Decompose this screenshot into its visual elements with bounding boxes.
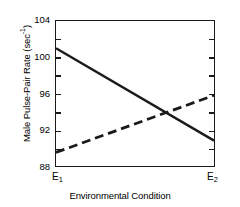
y-tick-left-90	[56, 149, 61, 151]
plot-area	[55, 20, 215, 167]
x-tick-label-e2-sub: 2	[214, 175, 218, 184]
series-lines	[56, 21, 214, 166]
y-tick-right-90	[209, 149, 214, 151]
y-tick-right-96	[209, 94, 214, 96]
series-line-solid	[56, 48, 214, 140]
y-tick-right-102	[209, 39, 214, 41]
x-tick-label-e1: E1	[52, 171, 63, 182]
y-axis-title-suffix: )	[21, 25, 32, 28]
x-tick-label-e1-text: E	[52, 171, 59, 182]
y-axis-title: Male Pulse-Pair Rate (sec-1)	[21, 4, 32, 164]
y-tick-right-98	[209, 75, 214, 77]
y-tick-right-92	[209, 131, 214, 133]
y-axis-title-text: Male Pulse-Pair Rate (sec	[21, 34, 32, 142]
y-tick-right-94	[209, 112, 214, 114]
series-line-dashed	[56, 95, 214, 152]
y-tick-left-100	[56, 57, 61, 59]
y-tick-left-102	[56, 39, 61, 41]
y-tick-right-100	[209, 57, 214, 59]
y-axis-title-exponent: -1	[19, 28, 26, 34]
y-tick-left-94	[56, 112, 61, 114]
x-tick-label-e2-text: E	[207, 171, 214, 182]
x-tick-label-e1-sub: 1	[59, 175, 63, 184]
y-tick-left-92	[56, 131, 61, 133]
chart-figure: Male Pulse-Pair Rate (sec-1) 104 100 96 …	[0, 0, 240, 207]
y-tick-left-98	[56, 75, 61, 77]
x-tick-label-e2: E2	[207, 171, 218, 182]
y-tick-left-96	[56, 94, 61, 96]
x-axis-title: Environmental Condition	[0, 190, 240, 201]
